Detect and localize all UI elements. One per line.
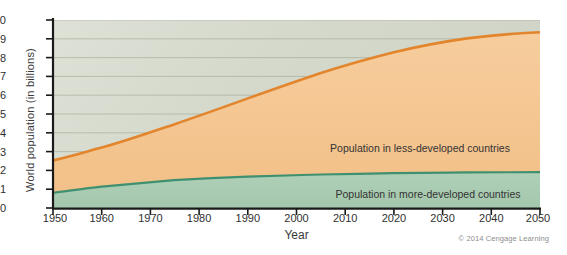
x-tick-label: 2010 bbox=[333, 212, 357, 224]
x-tick-label: 2030 bbox=[430, 212, 454, 224]
x-tick-label: 2040 bbox=[479, 212, 503, 224]
x-tick-label: 1970 bbox=[138, 212, 162, 224]
copyright-credit: © 2014 Cengage Learning bbox=[459, 234, 549, 243]
x-tick-label: 1950 bbox=[43, 212, 67, 224]
x-tick-label: 1960 bbox=[89, 212, 113, 224]
x-tick-label: 1990 bbox=[236, 212, 260, 224]
x-tick-label: 2000 bbox=[284, 212, 308, 224]
x-tick-label: 2020 bbox=[382, 212, 406, 224]
x-tick-label: 1980 bbox=[187, 212, 211, 224]
x-tick-label: 2050 bbox=[526, 212, 550, 224]
more-developed-band-label: Population in more-developed countries bbox=[335, 188, 520, 200]
population-chart-figure: World population (in billions) 10 9 8 7 … bbox=[0, 0, 567, 255]
less-developed-band-label: Population in less-developed countries bbox=[330, 142, 510, 154]
